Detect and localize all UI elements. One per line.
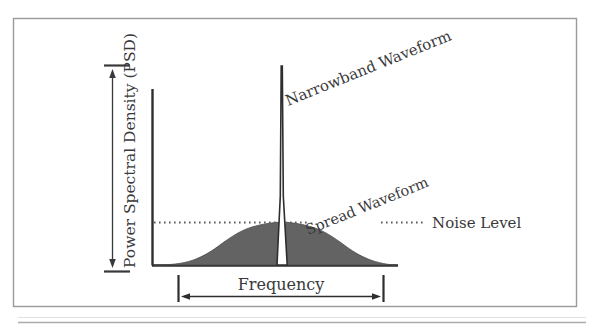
x-axis-label: Frequency	[238, 275, 325, 294]
figure-container: Power Spectral Density (PSD) Narrowband …	[0, 0, 593, 327]
noise-level-label: Noise Level	[432, 214, 521, 232]
y-axis-label: Power Spectral Density (PSD)	[121, 33, 139, 268]
psd-frequency-diagram: Power Spectral Density (PSD) Narrowband …	[0, 0, 593, 327]
